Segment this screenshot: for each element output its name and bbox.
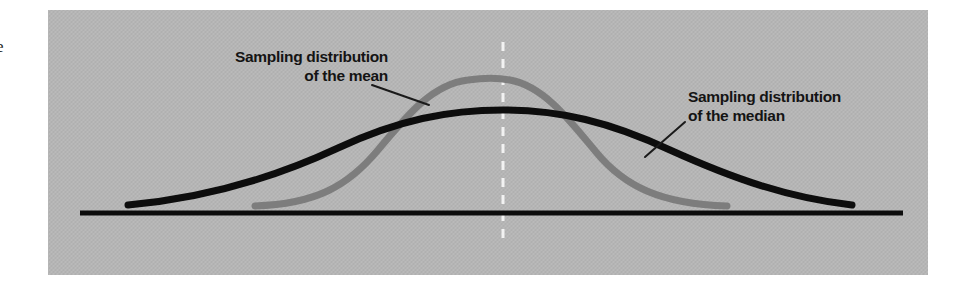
figure-root: e Sampling distribution of the mean Samp…: [0, 0, 978, 293]
label-sampling-distribution-of-the-mean: Sampling distribution of the mean: [158, 48, 388, 86]
label-sampling-distribution-of-the-median: Sampling distribution of the median: [688, 88, 918, 126]
chart-panel: Sampling distribution of the mean Sampli…: [48, 10, 928, 275]
page-edge-text-fragment: e: [0, 38, 4, 55]
mean-label-leader-line: [372, 85, 429, 105]
